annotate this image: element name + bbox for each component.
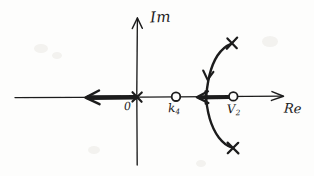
- root-locus-figure: Im Re 0 k4 V2: [0, 0, 314, 176]
- zero-k4-label-subscript: 4: [175, 107, 180, 116]
- imaginary-axis-label: Im: [150, 8, 172, 27]
- zero-v2-label-subscript: 2: [236, 108, 241, 117]
- pole-upper-cross-icon: [227, 38, 237, 49]
- locus-branch-upper: [206, 44, 232, 104]
- real-axis-line: [15, 96, 283, 97]
- real-axis-label: Re: [284, 101, 302, 117]
- imaginary-axis-line: [137, 18, 138, 165]
- origin-label: 0: [124, 100, 132, 113]
- zero-v2-label-base: V: [227, 102, 236, 116]
- zero-v2-label: V2: [227, 102, 241, 118]
- zero-k4-label: k4: [168, 101, 181, 117]
- zero-v2-circle-icon: [229, 92, 238, 101]
- locus-branch-lower: [206, 92, 233, 148]
- pole-lower-cross-icon: [228, 143, 239, 154]
- plot-canvas: [0, 0, 314, 176]
